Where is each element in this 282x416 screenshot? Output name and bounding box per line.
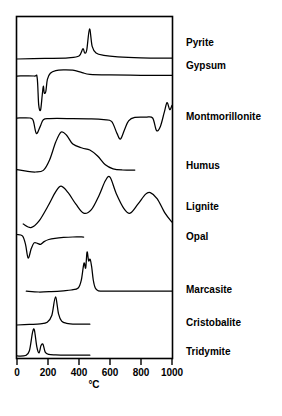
series-label-marcasite: Marcasite bbox=[186, 285, 232, 295]
dta-curves bbox=[17, 29, 172, 356]
series-label-opal: Opal bbox=[186, 232, 208, 242]
x-tick-label: 0 bbox=[14, 367, 20, 378]
dta-curve-gypsum bbox=[17, 70, 172, 111]
dta-curve-lignite bbox=[23, 176, 172, 227]
x-axis-tick-labels: 02004006008001000 bbox=[14, 367, 183, 378]
plot-area: 02004006008001000 °C bbox=[0, 0, 282, 416]
dta-thermogram-figure: 02004006008001000 °C Pyrite Gypsum Montm… bbox=[0, 0, 282, 416]
series-label-lignite: Lignite bbox=[186, 202, 219, 212]
x-tick-label: 600 bbox=[102, 367, 119, 378]
series-label-cristobalite: Cristobalite bbox=[186, 318, 241, 328]
dta-curve-tridymite bbox=[17, 329, 90, 356]
dta-curve-opal bbox=[17, 234, 84, 258]
x-tick-label: 800 bbox=[133, 367, 150, 378]
series-label-humus: Humus bbox=[186, 161, 220, 171]
plot-frame bbox=[17, 17, 173, 359]
dta-curve-humus bbox=[17, 132, 135, 172]
series-label-pyrite: Pyrite bbox=[186, 38, 214, 48]
series-label-montmorillonite: Montmorillonite bbox=[186, 112, 261, 122]
x-tick-label: 400 bbox=[71, 367, 88, 378]
series-label-tridymite: Tridymite bbox=[186, 347, 230, 357]
dta-curve-marcasite bbox=[26, 252, 172, 292]
dta-curve-pyrite bbox=[17, 29, 172, 59]
dta-curve-montmorillonite bbox=[17, 103, 172, 140]
x-axis-title: °C bbox=[88, 379, 99, 390]
dta-curve-cristobalite bbox=[17, 297, 90, 325]
series-label-gypsum: Gypsum bbox=[186, 61, 226, 71]
x-tick-label: 1000 bbox=[161, 367, 184, 378]
x-tick-label: 200 bbox=[40, 367, 57, 378]
